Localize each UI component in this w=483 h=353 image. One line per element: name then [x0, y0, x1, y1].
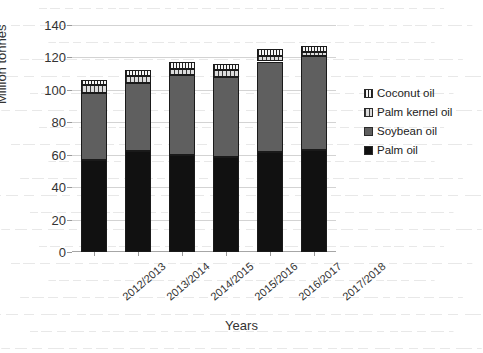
y-axis-tick-label: 140 — [24, 19, 66, 32]
y-axis-label: Million tonnes — [0, 25, 9, 105]
legend-swatch-coconut-oil — [364, 89, 373, 98]
gridline — [72, 122, 336, 123]
y-axis-tick-mark — [67, 25, 72, 26]
y-axis-tick-label: 40 — [24, 181, 66, 194]
legend-label-coconut-oil: Coconut oil — [377, 88, 435, 99]
legend-swatch-soybean-oil — [364, 127, 373, 136]
x-axis-tick-mark — [182, 252, 183, 256]
legend-item-palm-kernel-oil: Palm kernel oil — [364, 103, 452, 122]
y-axis-tick-mark — [67, 187, 72, 188]
legend-item-coconut-oil: Coconut oil — [364, 84, 452, 103]
bar-2015-2016[interactable] — [213, 64, 239, 252]
x-axis-tick-mark — [314, 252, 315, 256]
y-axis-tick-label: 60 — [24, 149, 66, 162]
bar-segment-palm-oil[interactable] — [301, 150, 327, 252]
x-axis-label: Years — [0, 318, 483, 333]
stacked-bar-chart: Million tonnes Years Coconut oil Palm ke… — [0, 0, 483, 353]
legend-item-palm-oil: Palm oil — [364, 141, 452, 160]
x-axis-tick-label: 2015/2016 — [252, 260, 300, 303]
x-axis-tick-mark — [94, 252, 95, 256]
bar-2013-2014[interactable] — [125, 70, 151, 252]
x-axis-tick-mark — [270, 252, 271, 256]
bar-segment-palm-kernel-oil[interactable] — [81, 85, 107, 93]
legend-item-soybean-oil: Soybean oil — [364, 122, 452, 141]
bar-segment-palm-kernel-oil[interactable] — [301, 52, 327, 56]
bar-2017-2018[interactable] — [301, 46, 327, 252]
bar-2012-2013[interactable] — [81, 80, 107, 252]
bar-2014-2015[interactable] — [169, 62, 195, 252]
plot-area — [72, 25, 336, 252]
y-axis-tick-mark — [67, 90, 72, 91]
bar-segment-coconut-oil[interactable] — [169, 62, 195, 68]
bar-segment-palm-oil[interactable] — [81, 160, 107, 252]
bar-segment-soybean-oil[interactable] — [81, 93, 107, 159]
bar-segment-palm-kernel-oil[interactable] — [169, 69, 195, 75]
gridline — [72, 155, 336, 156]
y-axis-tick-mark — [67, 122, 72, 123]
chart-legend: Coconut oil Palm kernel oil Soybean oil … — [364, 84, 452, 160]
bar-segment-palm-kernel-oil[interactable] — [125, 76, 151, 83]
x-axis-tick-label: 2014/2015 — [208, 260, 256, 303]
bar-segment-coconut-oil[interactable] — [213, 64, 239, 70]
bar-segment-soybean-oil[interactable] — [213, 77, 239, 157]
gridline — [72, 220, 336, 221]
bar-segment-palm-kernel-oil[interactable] — [257, 56, 283, 62]
bar-segment-coconut-oil[interactable] — [301, 46, 327, 52]
legend-label-palm-kernel-oil: Palm kernel oil — [377, 107, 452, 118]
bar-segment-palm-kernel-oil[interactable] — [213, 70, 239, 76]
legend-swatch-palm-kernel-oil — [364, 108, 373, 117]
y-axis-tick-label: 80 — [24, 116, 66, 129]
bar-segment-soybean-oil[interactable] — [125, 83, 151, 151]
x-axis-tick-label: 2016/2017 — [296, 260, 344, 303]
gridline — [72, 90, 336, 91]
x-axis-tick-label: 2012/2013 — [120, 260, 168, 303]
legend-label-palm-oil: Palm oil — [377, 145, 418, 156]
y-axis-tick-label: 120 — [24, 51, 66, 64]
gridline — [72, 187, 336, 188]
y-axis-tick-mark — [67, 57, 72, 58]
legend-label-soybean-oil: Soybean oil — [377, 126, 437, 137]
bar-segment-soybean-oil[interactable] — [301, 56, 327, 150]
x-axis-tick-mark — [226, 252, 227, 256]
bar-segment-soybean-oil[interactable] — [169, 75, 195, 154]
bar-segment-palm-oil[interactable] — [213, 157, 239, 252]
bar-segment-palm-oil[interactable] — [257, 152, 283, 252]
x-axis-tick-mark — [138, 252, 139, 256]
bar-segment-palm-oil[interactable] — [125, 151, 151, 252]
x-axis-tick-label: 2017/2018 — [340, 260, 388, 303]
x-axis-tick-label: 2013/2014 — [164, 260, 212, 303]
y-axis-tick-mark — [67, 252, 72, 253]
x-axis-line — [72, 251, 336, 252]
bar-segment-soybean-oil[interactable] — [257, 62, 283, 153]
bar-segment-palm-oil[interactable] — [169, 155, 195, 252]
gridline — [72, 25, 336, 26]
y-axis-tick-label: 0 — [24, 246, 66, 259]
y-axis-tick-mark — [67, 155, 72, 156]
bar-segment-coconut-oil[interactable] — [81, 80, 107, 85]
bar-segment-coconut-oil[interactable] — [125, 70, 151, 76]
bar-2016-2017[interactable] — [257, 49, 283, 252]
y-axis-tick-mark — [67, 220, 72, 221]
gridline — [72, 57, 336, 58]
y-axis-tick-label: 20 — [24, 214, 66, 227]
y-axis-tick-label: 100 — [24, 84, 66, 97]
legend-swatch-palm-oil — [364, 146, 373, 155]
bar-segment-coconut-oil[interactable] — [257, 49, 283, 55]
